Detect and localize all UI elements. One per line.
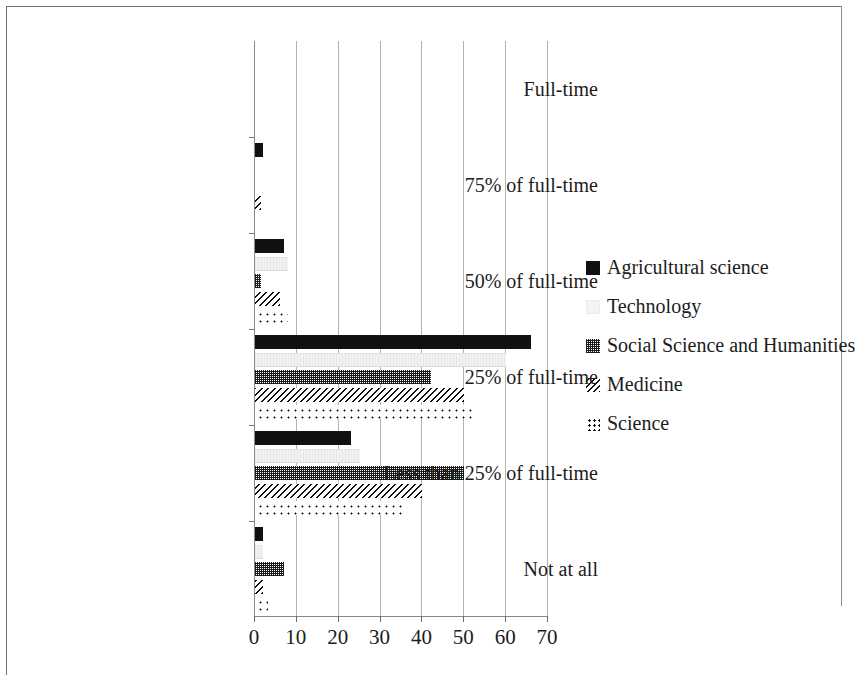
chart-figure: 010203040506070 Agricultural scienceTech… xyxy=(0,0,861,675)
bar-50-of-full-time-social-science-and-humanities xyxy=(255,274,261,288)
bar-75-of-full-time-agricultural-science xyxy=(255,143,263,157)
legend-label: Medicine xyxy=(607,373,683,396)
x-gridline xyxy=(380,41,381,617)
legend-item-medicine[interactable]: Medicine xyxy=(586,365,858,404)
plot-area: 010203040506070 xyxy=(254,41,547,617)
y-category-label: 50% of full-time xyxy=(465,270,598,293)
bar-75-of-full-time-science xyxy=(255,213,259,227)
bar-not-at-all-medicine xyxy=(255,580,263,594)
x-tick-label: 60 xyxy=(495,625,516,650)
x-tick xyxy=(505,616,506,622)
bar-25-of-full-time-medicine xyxy=(255,388,464,402)
x-tick-label: 40 xyxy=(411,625,432,650)
y-tick xyxy=(249,425,255,426)
y-tick xyxy=(249,137,255,138)
bar-less-than-25-of-full-time-technology xyxy=(255,449,360,463)
x-gridline xyxy=(421,41,422,617)
y-tick xyxy=(249,233,255,234)
bar-25-of-full-time-science xyxy=(255,405,473,419)
x-tick-label: 20 xyxy=(327,625,348,650)
figure-border-top xyxy=(6,6,842,7)
bar-25-of-full-time-technology xyxy=(255,353,506,367)
x-tick xyxy=(338,616,339,622)
bar-50-of-full-time-technology xyxy=(255,257,288,271)
x-gridline xyxy=(296,41,297,617)
legend-item-social-science-and-humanities[interactable]: Social Science and Humanities xyxy=(586,326,858,365)
legend-label: Social Science and Humanities xyxy=(607,334,855,357)
bar-not-at-all-social-science-and-humanities xyxy=(255,562,284,576)
y-category-label: 25% of full-time xyxy=(465,366,598,389)
y-category-label: Full-time xyxy=(524,78,598,101)
legend-swatch-icon xyxy=(586,339,600,353)
x-tick-label: 50 xyxy=(453,625,474,650)
bar-75-of-full-time-medicine xyxy=(255,196,261,210)
x-gridline xyxy=(547,41,548,617)
x-tick-label: 70 xyxy=(537,625,558,650)
y-category-label: 75% of full-time xyxy=(465,174,598,197)
figure-border-left xyxy=(6,6,7,675)
legend-swatch-icon xyxy=(586,417,600,431)
x-axis-line xyxy=(254,616,547,617)
y-tick xyxy=(249,329,255,330)
legend-swatch-icon xyxy=(586,300,600,314)
bar-less-than-25-of-full-time-science xyxy=(255,501,406,515)
x-tick xyxy=(463,616,464,622)
bar-full-time-science xyxy=(255,117,259,131)
legend-item-agricultural-science[interactable]: Agricultural science xyxy=(586,248,858,287)
chart-legend: Agricultural scienceTechnologySocial Sci… xyxy=(586,248,858,443)
bar-less-than-25-of-full-time-agricultural-science xyxy=(255,431,351,445)
bar-50-of-full-time-agricultural-science xyxy=(255,239,284,253)
bar-50-of-full-time-medicine xyxy=(255,292,280,306)
bar-less-than-25-of-full-time-medicine xyxy=(255,484,422,498)
bar-not-at-all-technology xyxy=(255,545,263,559)
x-gridline xyxy=(338,41,339,617)
legend-item-science[interactable]: Science xyxy=(586,404,858,443)
x-tick-label: 0 xyxy=(249,625,260,650)
x-gridline xyxy=(505,41,506,617)
x-gridline xyxy=(463,41,464,617)
legend-item-technology[interactable]: Technology xyxy=(586,287,858,326)
legend-label: Technology xyxy=(607,295,701,318)
legend-label: Science xyxy=(607,412,669,435)
y-category-label: Not at all xyxy=(524,558,598,581)
bar-25-of-full-time-agricultural-science xyxy=(255,335,531,349)
bar-not-at-all-agricultural-science xyxy=(255,527,263,541)
bar-50-of-full-time-science xyxy=(255,309,288,323)
x-tick xyxy=(254,616,255,622)
y-category-label: Less than 25% of full-time xyxy=(384,462,598,485)
bar-25-of-full-time-social-science-and-humanities xyxy=(255,370,431,384)
x-tick xyxy=(547,616,548,622)
x-tick xyxy=(296,616,297,622)
x-tick-label: 10 xyxy=(285,625,306,650)
y-tick xyxy=(249,521,255,522)
x-tick xyxy=(380,616,381,622)
legend-label: Agricultural science xyxy=(607,256,769,279)
bar-not-at-all-science xyxy=(255,597,268,611)
x-tick xyxy=(421,616,422,622)
x-tick-label: 30 xyxy=(369,625,390,650)
